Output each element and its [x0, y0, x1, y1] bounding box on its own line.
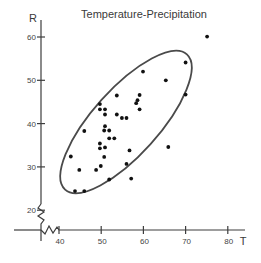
data-point: [205, 35, 209, 39]
data-point: [103, 146, 107, 150]
x-tick-label: 70: [182, 237, 191, 246]
data-point: [77, 168, 81, 172]
y-tick-label: 60: [27, 33, 36, 42]
data-point: [98, 142, 102, 146]
chart-title: Temperature-Precipitation: [81, 8, 207, 20]
scatter-chart: Temperature-Precipitation R 2030405060 T…: [0, 0, 261, 263]
data-point: [138, 93, 142, 97]
data-point: [129, 177, 133, 181]
data-point: [103, 107, 107, 111]
data-point: [82, 189, 86, 193]
data-point: [98, 102, 102, 106]
data-point: [184, 93, 188, 97]
data-point: [107, 129, 111, 133]
data-point: [115, 94, 119, 98]
x-tick-label: 80: [224, 237, 233, 246]
y-axis-break: [38, 204, 44, 241]
y-tick-label: 40: [27, 120, 36, 129]
data-point: [120, 116, 124, 120]
data-point: [184, 61, 188, 65]
data-point: [73, 189, 77, 193]
data-point: [166, 145, 170, 149]
data-point: [125, 162, 129, 166]
data-point: [128, 149, 132, 153]
y-tick-label: 50: [27, 76, 36, 85]
data-point: [69, 155, 73, 159]
x-tick-label: 40: [56, 237, 65, 246]
data-point: [82, 129, 86, 133]
y-tick-label: 30: [27, 163, 36, 172]
data-point: [103, 113, 107, 117]
data-point: [103, 124, 107, 128]
data-point: [107, 136, 111, 140]
y-axis: R 2030405060: [27, 12, 45, 241]
x-axis-label: T: [240, 235, 247, 247]
data-point: [138, 107, 142, 111]
data-point: [164, 78, 168, 82]
x-ticks: 4050607080: [56, 226, 234, 246]
data-point: [98, 146, 102, 150]
data-point: [115, 113, 119, 117]
concentration-ellipse: [41, 32, 212, 211]
y-axis-label: R: [29, 12, 37, 24]
x-tick-label: 50: [98, 237, 107, 246]
data-point: [125, 116, 129, 120]
data-point: [112, 136, 116, 140]
x-tick-label: 60: [140, 237, 149, 246]
data-point: [99, 164, 103, 168]
data-point: [102, 155, 106, 159]
data-point: [94, 168, 98, 172]
data-point: [134, 101, 138, 105]
data-point: [107, 178, 111, 182]
data-point: [98, 107, 102, 111]
data-point: [102, 129, 106, 133]
y-tick-label: 20: [27, 206, 36, 215]
y-ticks: 2030405060: [27, 33, 45, 215]
x-axis: T 4050607080: [14, 226, 247, 247]
data-point: [141, 70, 145, 74]
